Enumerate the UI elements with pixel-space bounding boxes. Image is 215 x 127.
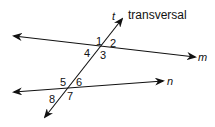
angle-1-label: 1	[96, 36, 102, 47]
angle-6-label: 6	[76, 77, 82, 88]
transversal-line-t	[45, 19, 122, 117]
angle-2-label: 2	[110, 38, 116, 49]
line-m-label: m	[198, 52, 207, 63]
transversal-label: transversal	[128, 9, 187, 21]
angle-5-label: 5	[60, 77, 66, 88]
line-n-label: n	[167, 76, 173, 87]
angle-3-label: 3	[100, 50, 106, 61]
line-n	[14, 81, 163, 92]
angle-8-label: 8	[49, 94, 55, 105]
angle-4-label: 4	[84, 48, 90, 59]
angle-7-label: 7	[67, 91, 73, 102]
line-t-label: t	[112, 11, 115, 22]
